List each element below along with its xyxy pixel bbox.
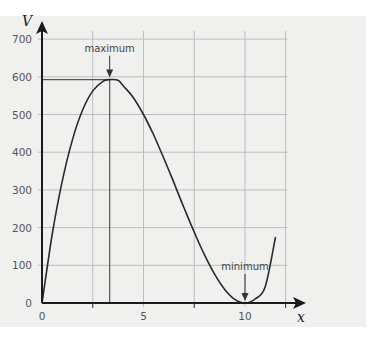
annotations: maximumminimum xyxy=(84,43,268,301)
x-axis-label: x xyxy=(297,309,305,325)
x-tick-label: 0 xyxy=(39,310,46,322)
y-tick-label: 0 xyxy=(25,297,32,309)
y-tick-label: 700 xyxy=(12,33,32,45)
annotation-minimum: minimum xyxy=(221,261,268,272)
y-tick-label: 600 xyxy=(12,71,32,83)
y-tick-label: 400 xyxy=(12,146,32,158)
y-tick-label: 200 xyxy=(12,222,32,234)
maximum-guide-lines xyxy=(42,80,110,303)
annotation-maximum: maximum xyxy=(84,43,134,54)
x-tick-label: 5 xyxy=(140,310,147,322)
x-tick-label: 10 xyxy=(238,310,251,322)
arrow-down-icon xyxy=(242,293,249,301)
y-tick-label: 500 xyxy=(12,109,32,121)
y-axis-label: V xyxy=(22,13,34,29)
chart: 01002003004005006007000510 V x maximummi… xyxy=(0,0,375,338)
y-tick-label: 100 xyxy=(12,259,32,271)
y-tick-label: 300 xyxy=(12,184,32,196)
